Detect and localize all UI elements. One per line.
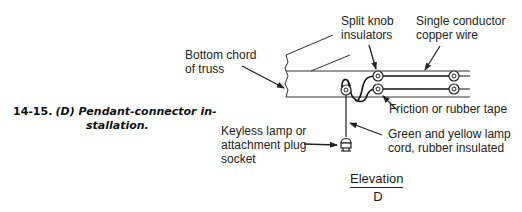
label-line: copper wire xyxy=(416,28,505,42)
diagram-figure: 14-15. (D) Pendant-connector in- stallat… xyxy=(0,0,522,212)
label-line: Split knob xyxy=(341,14,394,28)
figure-caption: 14-15. (D) Pendant-connector in- stallat… xyxy=(13,104,217,133)
view-label: Elevation xyxy=(350,171,403,188)
label-line: attachment plug xyxy=(221,138,306,152)
figure-number: 14-15. xyxy=(13,105,52,118)
label-lamp-cord: Green and yellow lamp cord, rubber insul… xyxy=(388,127,511,155)
view-letter: D xyxy=(370,189,386,204)
label-keyless-lamp: Keyless lamp or attachment plug socket xyxy=(221,124,306,166)
label-line: Green and yellow lamp xyxy=(388,127,511,141)
label-bottom-chord: Bottom chord of truss xyxy=(185,48,256,76)
label-friction-tape: Friction or rubber tape xyxy=(389,102,507,116)
label-split-knob-insulators: Split knob insulators xyxy=(341,14,394,42)
label-line: Friction or rubber tape xyxy=(389,102,507,116)
figure-title-continued: stallation. xyxy=(13,119,217,133)
label-line: socket xyxy=(221,152,306,166)
label-line: insulators xyxy=(341,28,394,42)
lamp-socket-icon xyxy=(341,139,351,152)
label-line: Bottom chord xyxy=(185,48,256,62)
figure-title: (D) Pendant-connector in- xyxy=(56,105,217,118)
label-line: Single conductor xyxy=(416,14,505,28)
label-line: of truss xyxy=(185,62,256,76)
label-single-conductor: Single conductor copper wire xyxy=(416,14,505,42)
split-knob-insulators xyxy=(341,71,459,95)
label-line: cord, rubber insulated xyxy=(388,141,511,155)
label-line: Keyless lamp or xyxy=(221,124,306,138)
